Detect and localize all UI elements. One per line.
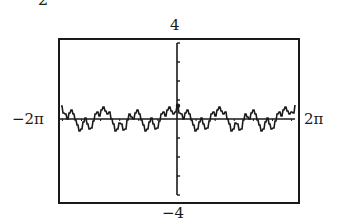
function-curve bbox=[61, 105, 295, 131]
x-max-label: 2π bbox=[304, 112, 323, 127]
origin-marker bbox=[176, 104, 180, 108]
y-min-label: −4 bbox=[162, 206, 184, 221]
y-max-label: 4 bbox=[170, 18, 180, 33]
x-min-label: −2π bbox=[12, 112, 44, 127]
